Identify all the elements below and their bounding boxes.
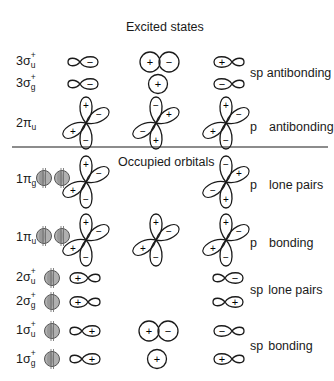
svg-text:−: − xyxy=(153,100,159,111)
svg-text:−: − xyxy=(236,226,242,237)
orbital-3su-left: − xyxy=(68,56,98,68)
svg-text:+: + xyxy=(70,185,76,196)
svg-text:+: + xyxy=(70,243,76,254)
svg-text:−: − xyxy=(223,159,229,170)
svg-text:−: − xyxy=(87,78,93,90)
svg-text:+: + xyxy=(75,272,81,284)
svg-text:+: + xyxy=(210,126,216,137)
svg-text:+: + xyxy=(89,353,95,365)
row-label-2sg: 2σ+g xyxy=(16,294,31,308)
svg-text:+: + xyxy=(166,109,172,120)
orbital-1sg-right: + xyxy=(214,353,244,365)
svg-text:+: + xyxy=(210,243,216,254)
row-label-3su: 3σ+u xyxy=(16,54,31,68)
row-label-1su: 1σ+u xyxy=(16,323,31,337)
svg-text:−: − xyxy=(83,135,89,146)
svg-text:−: − xyxy=(236,109,242,120)
electron-1su xyxy=(45,321,60,341)
electron-2su xyxy=(45,268,60,288)
svg-text:+: + xyxy=(83,100,89,111)
row-label-1sg: 1σ+g xyxy=(16,352,31,366)
desc-p-lone-pairs: plone pairs xyxy=(250,178,323,192)
svg-text:−: − xyxy=(153,252,159,263)
svg-text:+: + xyxy=(223,194,229,205)
desc-sp-antibonding: sp antibonding xyxy=(250,66,331,80)
desc-sp-lone-pairs: splone pairs xyxy=(250,283,322,297)
svg-text:+: + xyxy=(236,168,242,179)
row-label-2pu: 2πu xyxy=(16,116,32,130)
orbital-1sg-left: + xyxy=(70,353,100,365)
electron-2sg xyxy=(45,292,60,312)
svg-text:−: − xyxy=(166,56,172,68)
row-label-1pu: 1πu xyxy=(16,230,32,244)
orbital-3su-right: + xyxy=(214,56,244,68)
orbital-2pu-middle: − + + − xyxy=(130,97,181,149)
electrons-1pu xyxy=(37,226,70,246)
svg-text:+: + xyxy=(83,159,89,170)
svg-text:+: + xyxy=(232,296,238,308)
orbital-3sg-right: − xyxy=(214,78,244,90)
row-label-1pg: 1πg xyxy=(16,172,32,186)
svg-text:+: + xyxy=(154,353,160,365)
orbital-2su-right: − xyxy=(213,272,243,284)
svg-text:−: − xyxy=(165,325,171,337)
desc-p-bonding: pbonding xyxy=(250,236,313,250)
orbital-2su-left: + xyxy=(70,272,100,284)
svg-text:−: − xyxy=(223,252,229,263)
orbital-2sg-right: + xyxy=(213,296,243,308)
svg-text:−: − xyxy=(232,272,238,284)
svg-text:−: − xyxy=(219,78,225,90)
svg-text:+: + xyxy=(219,56,225,68)
svg-text:+: + xyxy=(153,135,159,146)
orbital-3sg-middle: + xyxy=(149,75,168,94)
orbital-1sg-middle: + xyxy=(148,350,167,369)
svg-text:−: − xyxy=(96,168,102,179)
svg-text:+: + xyxy=(140,243,146,254)
orbital-1pu-middle: + − − + xyxy=(130,214,181,266)
svg-text:+: + xyxy=(89,325,95,337)
electron-1sg xyxy=(45,349,60,369)
row-label-3sg: 3σ+g xyxy=(16,76,31,90)
svg-text:+: + xyxy=(70,126,76,137)
svg-text:−: − xyxy=(166,226,172,237)
orbital-2sg-left: + xyxy=(70,296,100,308)
svg-text:−: − xyxy=(223,135,229,146)
svg-text:−: − xyxy=(219,325,225,337)
svg-text:+: + xyxy=(219,353,225,365)
svg-text:−: − xyxy=(87,56,93,68)
desc-p-antibonding: pantibonding xyxy=(250,120,334,134)
svg-text:−: − xyxy=(96,226,102,237)
svg-text:−: − xyxy=(96,109,102,120)
occupied-orbitals-title: Occupied orbitals xyxy=(118,155,215,169)
svg-text:+: + xyxy=(223,100,229,111)
excited-states-title: Excited states xyxy=(126,20,204,34)
svg-text:−: − xyxy=(83,194,89,205)
orbital-1su-middle: + − xyxy=(139,321,178,341)
svg-text:+: + xyxy=(223,217,229,228)
orbital-3sg-left: − xyxy=(68,78,98,90)
svg-text:+: + xyxy=(83,217,89,228)
svg-text:+: + xyxy=(153,217,159,228)
orbital-2pu-right: + − − + xyxy=(200,97,251,149)
electrons-1pg xyxy=(37,168,70,188)
row-label-2su: 2σ+u xyxy=(16,270,31,284)
desc-sp-bonding: spbonding xyxy=(250,339,313,353)
orbital-1su-right: − xyxy=(214,325,244,337)
svg-text:+: + xyxy=(147,56,153,68)
svg-text:−: − xyxy=(210,185,216,196)
svg-text:−: − xyxy=(140,126,146,137)
orbital-2pu-left: + − − + xyxy=(60,97,111,149)
orbital-1su-left: + xyxy=(70,325,100,337)
svg-text:+: + xyxy=(155,78,161,90)
svg-text:+: + xyxy=(146,325,152,337)
svg-text:+: + xyxy=(75,296,81,308)
svg-text:−: − xyxy=(83,252,89,263)
orbital-3su-middle: + − xyxy=(140,52,179,72)
orbital-1pu-right: + − − + xyxy=(200,214,251,266)
